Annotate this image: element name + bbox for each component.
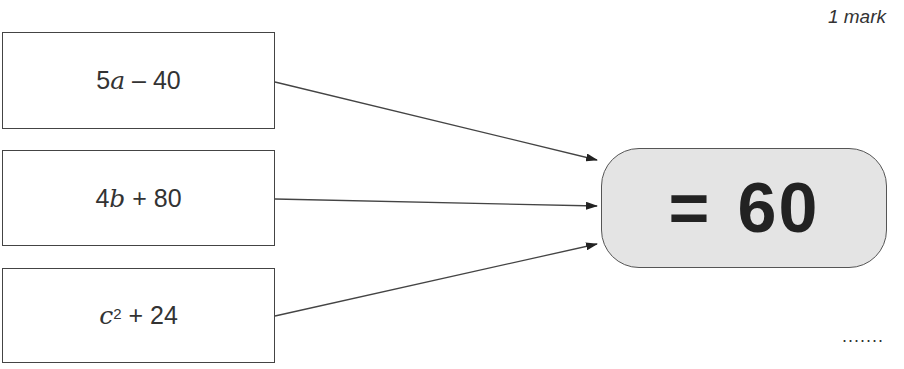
target-value-box: =60 xyxy=(601,148,887,268)
answer-line[interactable]: ....... xyxy=(842,326,884,347)
expr-constant: 24 xyxy=(150,301,178,330)
expr-operator: + xyxy=(125,184,154,213)
expr-variable: a xyxy=(110,66,125,95)
expr-operator: + xyxy=(122,301,151,330)
expr-coef: 5 xyxy=(96,66,110,95)
equals-sign: = xyxy=(669,168,712,248)
target-value: 60 xyxy=(738,168,820,248)
expression-box-1: 5a – 40 xyxy=(2,32,275,129)
arrow-2 xyxy=(275,199,597,206)
expression-box-2: 4b + 80 xyxy=(2,150,275,246)
mark-label: 1 mark xyxy=(828,6,886,28)
expr-exponent: 2 xyxy=(113,305,121,322)
expr-variable: b xyxy=(109,184,125,213)
expr-variable: c xyxy=(99,301,113,330)
expression-box-3: c2 + 24 xyxy=(2,268,275,363)
arrow-3 xyxy=(275,244,597,316)
arrow-1 xyxy=(275,82,597,160)
expr-operator: – xyxy=(125,66,153,95)
expr-constant: 80 xyxy=(154,184,182,213)
expr-coef: 4 xyxy=(95,184,109,213)
expr-constant: 40 xyxy=(153,66,181,95)
